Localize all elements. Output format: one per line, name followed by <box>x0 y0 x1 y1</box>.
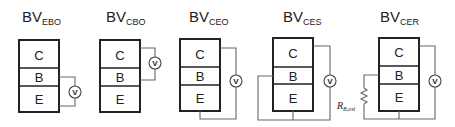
voltmeter-label: V <box>72 88 78 97</box>
wire-base <box>364 75 379 88</box>
wire-emitter <box>59 98 75 106</box>
emitter-label: E <box>395 90 404 105</box>
config-ebo: C B E V <box>19 40 81 112</box>
collector-label: C <box>394 45 403 60</box>
wire-collector <box>220 48 236 75</box>
base-label: B <box>289 69 298 84</box>
base-label: B <box>395 68 404 83</box>
voltmeter-label: V <box>233 77 239 86</box>
wire-base <box>59 77 75 86</box>
voltmeter-label: V <box>432 77 438 86</box>
collector-label: C <box>288 46 297 61</box>
breakdown-voltage-diagram: C B E V C B E V C B E V C B <box>0 0 455 127</box>
config-ceo: C B E V <box>180 39 242 119</box>
resistor-icon <box>361 88 367 104</box>
wire-collector <box>313 46 330 75</box>
wire-collector <box>419 46 435 75</box>
wire-collector <box>140 48 155 57</box>
voltmeter-label: V <box>152 59 158 68</box>
collector-label: C <box>195 47 204 62</box>
resistor-label: RB,ext <box>336 100 356 112</box>
base-label: B <box>116 70 125 85</box>
collector-label: C <box>34 48 43 63</box>
emitter-label: E <box>196 91 205 106</box>
config-ces: C B E V <box>258 38 336 120</box>
collector-label: C <box>115 48 124 63</box>
wire-emitter <box>200 87 236 119</box>
wire-base <box>140 69 155 80</box>
config-cbo: C B E V <box>100 40 161 112</box>
config-cer: C B E V RB,ext <box>336 38 441 119</box>
emitter-label: E <box>35 92 44 107</box>
emitter-label: E <box>116 92 125 107</box>
base-label: B <box>196 69 205 84</box>
emitter-label: E <box>289 91 298 106</box>
voltmeter-label: V <box>327 77 333 86</box>
base-label: B <box>35 70 44 85</box>
